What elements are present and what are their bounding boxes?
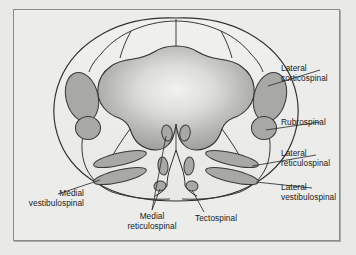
label-lateral-corticospinal-line2: corticospinal xyxy=(281,73,328,83)
label-lateral-vestibulospinal: Lateral vestibulospinal xyxy=(281,182,336,202)
label-lateral-reticulospinal: Lateral reticulospinal xyxy=(281,148,330,168)
label-lateral-vestibulospinal-line2: vestibulospinal xyxy=(281,192,336,202)
label-medial-vestibulospinal-line1: Medial xyxy=(22,188,84,198)
label-rubrospinal: Rubrospinal xyxy=(281,117,326,127)
label-medial-vestibulospinal: Medial vestibulospinal xyxy=(22,188,84,208)
label-medial-reticulospinal: Medial reticulospinal xyxy=(112,211,192,231)
label-rubrospinal-line1: Rubrospinal xyxy=(281,117,326,127)
label-tectospinal: Tectospinal xyxy=(186,213,246,223)
label-lateral-corticospinal: Lateral corticospinal xyxy=(281,63,328,83)
label-tectospinal-line1: Tectospinal xyxy=(186,213,246,223)
label-lateral-reticulospinal-line1: Lateral xyxy=(281,148,330,158)
label-medial-reticulospinal-line2: reticulospinal xyxy=(112,221,192,231)
label-lateral-corticospinal-line1: Lateral xyxy=(281,63,328,73)
label-medial-vestibulospinal-line2: vestibulospinal xyxy=(22,198,84,208)
label-lateral-reticulospinal-line2: reticulospinal xyxy=(281,158,330,168)
label-lateral-vestibulospinal-line1: Lateral xyxy=(281,182,336,192)
label-medial-reticulospinal-line1: Medial xyxy=(112,211,192,221)
